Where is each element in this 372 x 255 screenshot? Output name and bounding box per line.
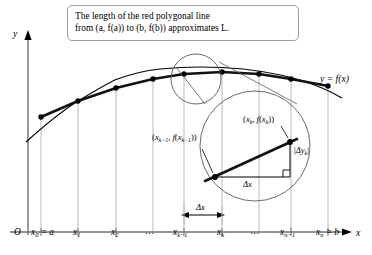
x-axis-label: x (356, 228, 360, 238)
callout-line-2: from (a, f(a)) to (b, f(b)) approximates… (75, 22, 292, 34)
y-axis-label: y (13, 29, 17, 39)
delta-y-label: |Δyk| (294, 146, 309, 155)
tick-label-ellipsis-left: … (145, 227, 156, 236)
tick-label-xk: xk (217, 228, 224, 237)
tick-label-xk-1: xk−1 (173, 228, 188, 237)
tick-label-xn: xn = b (316, 228, 339, 237)
tick-label-xn-1: xn−1 (280, 228, 295, 237)
magnifier-small-circle (171, 54, 221, 104)
callout-box: The length of the red polygonal line fro… (67, 5, 299, 41)
origin-label: O (14, 228, 21, 237)
tick-label-ellipsis-right: … (250, 227, 261, 236)
arc-length-figure: The length of the red polygonal line fro… (0, 0, 372, 255)
tick-label-x0: x0 = a (31, 228, 54, 237)
point-label-xk: (xk, f(xk)) (243, 115, 274, 124)
point-label-xk-1: (xk−1, f(xk−1)) (152, 133, 197, 142)
tick-label-x2: x2 (111, 228, 118, 237)
delta-x-axis-label: Δx (196, 203, 205, 212)
y-axis (24, 30, 31, 235)
tick-label-x1: x1 (73, 228, 80, 237)
delta-x-triangle-label: Δx (243, 180, 252, 189)
curve-label: y = f(x) (320, 74, 349, 84)
callout-line-1: The length of the red polygonal line (75, 10, 292, 22)
